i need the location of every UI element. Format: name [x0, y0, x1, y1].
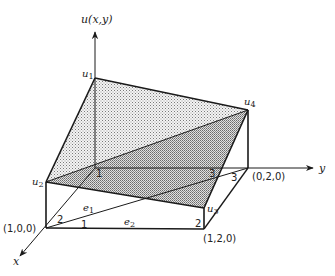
u3-label: u3 [207, 203, 219, 216]
local-node-e2-2: 2 [195, 218, 201, 229]
u2-label: u2 [32, 176, 44, 189]
point-020-label: (0,2,0) [252, 171, 285, 182]
finite-element-diagram: u(x,y) x y x u1 u2 u3 u4 (1,0,0) (0,2,0)… [0, 0, 335, 276]
y-axis-label-text: y [318, 162, 326, 175]
local-node-origin-1: 1 [96, 168, 102, 179]
local-node-mid-3: 3 [231, 172, 237, 183]
point-100-label: (1,0,0) [3, 223, 36, 234]
u4-label: u4 [244, 96, 256, 109]
local-node-top-3: 3 [209, 168, 215, 179]
point-120-label: (1,2,0) [203, 233, 236, 244]
u-axis-label: u(x,y) [81, 13, 113, 26]
element-e1-label: e1 [83, 202, 94, 215]
u1-label: u1 [82, 68, 94, 81]
element-e2-label: e2 [124, 216, 135, 229]
floor-edge-100-120 [46, 228, 204, 229]
x-axis-label: x [13, 255, 20, 268]
local-node-e1-2: 2 [57, 214, 63, 225]
local-node-e2-1: 1 [81, 219, 87, 230]
